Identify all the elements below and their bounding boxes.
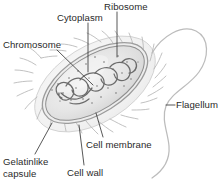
leader-line-cell-wall [79,125,84,165]
label-chromosome: Chromosome [3,39,61,50]
label-flagellum: Flagellum [176,99,218,110]
leader-line-gelatinlike-capsule [35,123,52,154]
label-gelatinlike-capsule-line2: capsule [3,168,36,179]
label-cell-wall: Cell wall [67,167,103,178]
label-cytoplasm: Cytoplasm [57,12,103,23]
label-ribosome: Ribosome [104,1,148,12]
bacterial-cell-diagram: Ribosome Cytoplasm Chromosome Flagellum … [0,0,222,187]
label-gelatinlike-capsule: Gelatinlike capsule [3,156,65,179]
label-cell-membrane: Cell membrane [86,139,152,150]
label-gelatinlike-capsule-line1: Gelatinlike [3,156,48,167]
